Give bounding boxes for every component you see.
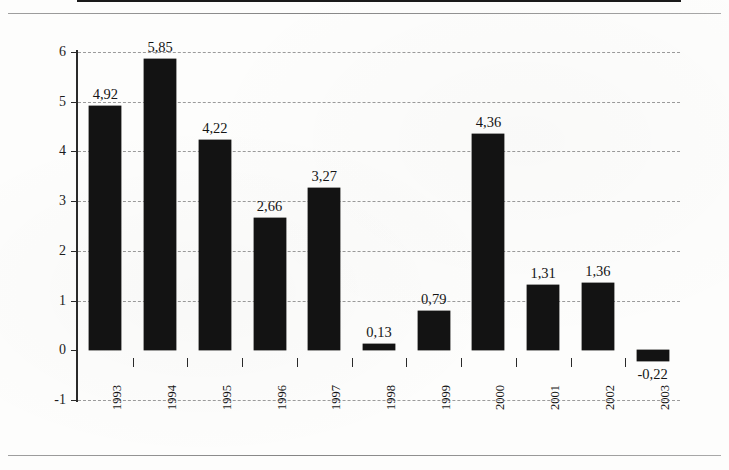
x-axis-category-label: 2003 xyxy=(659,385,672,410)
y-axis-tick-label: 3 xyxy=(38,194,66,208)
bar xyxy=(582,283,614,351)
bar xyxy=(199,140,231,350)
bar-value-label: 5,85 xyxy=(125,40,195,55)
bar-value-label: 4,36 xyxy=(453,115,523,130)
bar-value-label: 0,13 xyxy=(344,325,414,340)
x-axis-tick-mark xyxy=(406,358,407,367)
bar-value-label: -0,22 xyxy=(618,367,688,382)
bar-value-label: 3,27 xyxy=(289,169,359,184)
y-axis-tick-label: -1 xyxy=(38,393,66,407)
bar xyxy=(418,311,450,350)
x-axis-category-label: 1993 xyxy=(111,385,124,410)
bar xyxy=(254,218,286,350)
x-axis-tick-mark xyxy=(352,358,353,367)
y-axis-line xyxy=(76,50,78,402)
zero-baseline xyxy=(77,0,681,2)
x-axis-category-label: 2002 xyxy=(604,385,617,410)
y-axis-tick-label: 1 xyxy=(38,294,66,308)
x-axis-tick-mark xyxy=(461,358,462,367)
x-axis-category-label: 2001 xyxy=(549,385,562,410)
x-axis-tick-mark xyxy=(516,358,517,367)
bar xyxy=(472,134,504,351)
x-axis-tick-mark xyxy=(625,358,626,367)
x-axis-category-label: 1995 xyxy=(221,385,234,410)
bar xyxy=(637,350,669,361)
bar xyxy=(527,285,559,350)
bar-value-label: 1,36 xyxy=(563,264,633,279)
bar-value-label: 2,66 xyxy=(235,199,305,214)
x-axis-tick-mark xyxy=(242,358,243,367)
x-axis-category-label: 2000 xyxy=(494,385,507,410)
x-axis-category-label: 1998 xyxy=(385,385,398,410)
bar-value-label: 4,92 xyxy=(70,87,140,102)
bar-value-label: 4,22 xyxy=(180,121,250,136)
y-axis-tick-label: 4 xyxy=(38,144,66,158)
bar xyxy=(89,106,121,351)
x-axis-category-label: 1997 xyxy=(330,385,343,410)
bar xyxy=(144,59,176,350)
x-axis-category-label: 1996 xyxy=(276,385,289,410)
x-axis-tick-mark xyxy=(133,358,134,367)
x-axis-category-label: 1999 xyxy=(440,385,453,410)
x-axis-tick-mark xyxy=(571,358,572,367)
y-axis-tick-label: 2 xyxy=(38,244,66,258)
bar xyxy=(363,344,395,350)
bar-chart-plot: 6543210-1 4,925,854,222,663,270,130,794,… xyxy=(0,0,729,470)
x-axis-tick-mark xyxy=(187,358,188,367)
x-axis-category-label: 1994 xyxy=(166,385,179,410)
x-axis-tick-mark xyxy=(297,358,298,367)
chart-page: 6543210-1 4,925,854,222,663,270,130,794,… xyxy=(0,0,729,470)
bar-value-label: 0,79 xyxy=(399,292,469,307)
y-axis-tick-label: 0 xyxy=(38,343,66,357)
y-axis-tick-label: 5 xyxy=(38,95,66,109)
bar xyxy=(308,188,340,351)
y-axis-tick-label: 6 xyxy=(38,45,66,59)
